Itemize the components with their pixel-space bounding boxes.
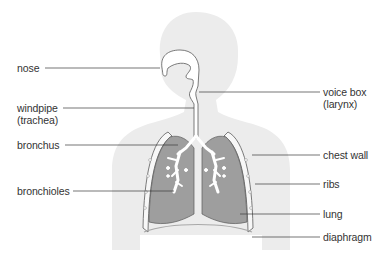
label-voice-box: voice box(larynx) xyxy=(323,86,366,110)
label-diaphragm: diaphragm xyxy=(323,231,372,243)
label-chest-wall: chest wall xyxy=(323,149,368,161)
label-bronchioles: bronchioles xyxy=(17,185,70,197)
label-ribs: ribs xyxy=(323,178,340,190)
label-lung: lung xyxy=(323,208,342,220)
label-bronchus: bronchus xyxy=(17,139,59,151)
label-windpipe: windpipe(trachea) xyxy=(17,102,58,126)
anatomy-illustration xyxy=(0,0,387,268)
respiratory-diagram: nose windpipe(trachea) bronchus bronchio… xyxy=(0,0,387,268)
label-nose: nose xyxy=(17,62,39,74)
